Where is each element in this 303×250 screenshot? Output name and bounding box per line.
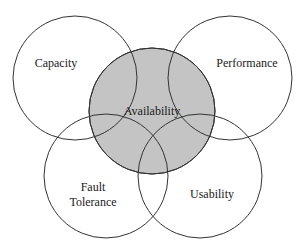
performance-label: Performance <box>216 56 277 70</box>
fault-tolerance-label-line2: Tolerance <box>69 195 116 209</box>
capacity-label: Capacity <box>35 56 78 70</box>
venn-diagram: Capacity Performance Availability Fault … <box>0 0 303 250</box>
availability-label: Availability <box>124 104 180 118</box>
usability-label: Usability <box>190 187 234 201</box>
fault-tolerance-label-line1: Fault <box>81 180 106 194</box>
